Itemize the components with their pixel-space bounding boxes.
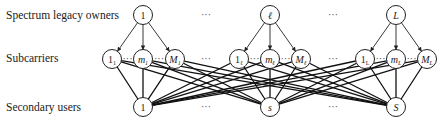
secondary-user-node: s — [261, 98, 280, 117]
subcarrier-node: M1 — [166, 50, 185, 69]
svg-text:ℓ: ℓ — [268, 10, 272, 21]
subcarrier-node: Mℓ — [292, 50, 311, 69]
nodes: 1ℓL1sS11m1M1······1ℓmℓMℓ······1LmLML····… — [103, 6, 437, 117]
subcarrier-node: 1L — [356, 50, 375, 69]
owner-node: 1 — [134, 6, 153, 25]
edge — [275, 23, 295, 51]
ellipsis: ··· — [376, 53, 386, 64]
subcarrier-node: 11 — [103, 50, 122, 69]
diagram-canvas: 1ℓL1sS11m1M1······1ℓmℓMℓ······1LmLML····… — [0, 0, 448, 123]
subcarrier-node: m1 — [134, 50, 153, 69]
ellipsis: ··· — [250, 53, 260, 64]
svg-text:S: S — [394, 102, 399, 113]
ellipsis: ··· — [281, 53, 291, 64]
ellipsis: ··· — [154, 53, 164, 64]
owner-node: L — [387, 6, 406, 25]
ellipsis: ··· — [201, 53, 211, 64]
edge — [148, 67, 169, 99]
ellipsis: ··· — [328, 101, 338, 112]
ellipsis: ··· — [328, 53, 338, 64]
label-secondary-users: Secondary users — [6, 101, 82, 114]
svg-text:s: s — [268, 102, 272, 113]
ellipsis: ··· — [201, 9, 211, 20]
ellipsis: ··· — [123, 53, 133, 64]
subcarrier-node: mL — [387, 50, 406, 69]
secondary-user-node: S — [387, 98, 406, 117]
edge — [244, 23, 264, 51]
label-owners: Spectrum legacy owners — [6, 9, 120, 22]
owner-node: ℓ — [261, 6, 280, 25]
label-subcarriers: Subcarriers — [6, 52, 59, 64]
svg-text:1: 1 — [141, 10, 146, 21]
subcarrier-node: 1ℓ — [230, 50, 249, 69]
edge — [401, 23, 421, 51]
ellipsis: ··· — [201, 101, 211, 112]
edge — [117, 67, 138, 99]
edge — [370, 23, 390, 51]
subcarrier-node: ML — [418, 50, 437, 69]
svg-text:1: 1 — [141, 102, 146, 113]
edge — [117, 23, 137, 51]
secondary-user-node: 1 — [134, 98, 153, 117]
ellipsis: ··· — [328, 9, 338, 20]
edge — [401, 67, 422, 99]
edge — [370, 67, 391, 99]
ellipsis: ··· — [407, 53, 417, 64]
subcarrier-node: mℓ — [261, 50, 280, 69]
svg-text:L: L — [392, 10, 399, 21]
edge — [149, 23, 170, 52]
